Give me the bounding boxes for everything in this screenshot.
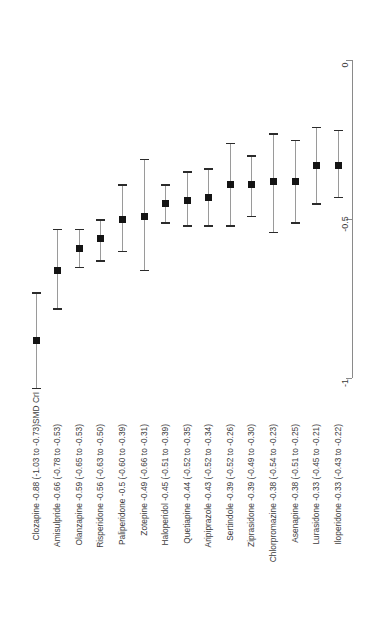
row-label-ziprasidone: Ziprasidone -0.39 (-0.49 to -0.30) xyxy=(247,424,256,547)
row-label-paliperidone: Paliperidone -0.5 (-0.60 to -0.39) xyxy=(118,424,127,545)
row-label-chlorpromazine: Chlorpromazine -0.38 (-0.54 to -0.23) xyxy=(269,424,278,562)
row-label-clozapine: Clozapine -0.88 (-1.03 to -0.73) xyxy=(32,424,41,540)
row-label-haloperidol: Haloperidol -0.45 (-0.51 to -0.39) xyxy=(161,424,170,546)
row-label-layer: SMD CrI Clozapine -0.88 (-1.03 to -0.73)… xyxy=(0,0,385,621)
row-label-amisulpride: Amisulpride -0.66 (-0.78 to -0.53) xyxy=(53,424,62,547)
row-label-iloperidone: Iloperidone -0.33 (-0.43 to -0.22) xyxy=(334,424,343,545)
row-label-sertindole: Sertindole -0.39 (-0.52 to -0.26) xyxy=(226,424,235,541)
column-header-smd-cri: SMD CrI xyxy=(31,392,41,424)
row-label-olanzapine: Olanzapine -0.59 (-0.65 to -0.53) xyxy=(75,424,84,546)
row-label-aripiprazole: Aripiprazole -0.43 (-0.52 to -0.34) xyxy=(204,424,213,547)
row-label-asenapine: Asenapine -0.38 (-0.51 to -0.25) xyxy=(291,424,300,543)
forest-plot-figure: 0-0.5-1 SMD CrI Clozapine -0.88 (-1.03 t… xyxy=(0,0,385,621)
row-label-quetiapine: Quetiapine -0.44 (-0.52 to -0.35) xyxy=(183,424,192,544)
row-label-lurasidone: Lurasidone -0.33 (-0.45 to -0.21) xyxy=(312,424,321,545)
row-label-zotepine: Zotepine -0.49 (-0.66 to -0.31) xyxy=(140,424,149,536)
row-label-risperidone: Risperidone -0.56 (-0.63 to -0.50) xyxy=(96,424,105,548)
